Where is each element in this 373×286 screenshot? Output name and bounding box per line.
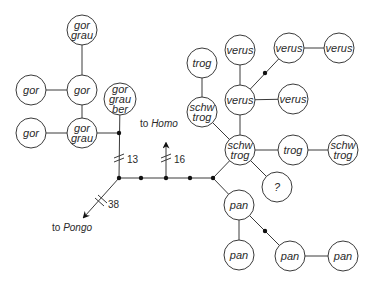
haplotype-node: pan xyxy=(224,240,254,270)
node-label: grau xyxy=(71,132,93,144)
gorilla-branch-count: 13 xyxy=(127,154,139,165)
to-pongo-label: to Pongo xyxy=(52,222,92,233)
node-label: pan xyxy=(229,249,248,261)
node-label: trog xyxy=(284,144,304,156)
node-label: trog xyxy=(334,149,354,161)
haplotype-node: gor xyxy=(16,118,46,148)
haplotype-node: pan xyxy=(275,241,305,271)
haplotype-node: verus xyxy=(324,33,354,63)
node-label: grau xyxy=(71,29,93,41)
haplotype-node: gor xyxy=(16,75,46,105)
haplotype-node: gorgrau xyxy=(67,118,97,148)
haplotype-node: schwtrog xyxy=(187,97,217,127)
node-label: trog xyxy=(193,57,213,69)
node-label: verus xyxy=(326,42,353,54)
haplotype-node: trog xyxy=(278,135,308,165)
haplotype-node: verus xyxy=(225,35,255,65)
haplotype-node: ? xyxy=(262,172,292,202)
to-homo-label: to Homo xyxy=(140,118,178,129)
node-label: verus xyxy=(227,44,254,56)
haplotype-node: verus xyxy=(225,85,255,115)
homo-branch-count: 16 xyxy=(174,154,186,165)
node-label: pan xyxy=(280,250,299,262)
node-label: pan xyxy=(229,199,248,211)
node-label: gor xyxy=(23,127,40,139)
haplotype-node: gorgrau xyxy=(67,15,97,45)
haplotype-node: pan xyxy=(328,241,358,271)
haplotype-node: gorgrauber xyxy=(104,83,136,115)
node-label: ber xyxy=(112,103,129,115)
haplotype-node: verus xyxy=(274,33,304,63)
haplotype-node: schwtrog xyxy=(225,135,255,165)
haplotype-network-diagram: gorgraugorgorgorgorgraugorgraubertrogsch… xyxy=(0,0,373,286)
node-label: ? xyxy=(274,181,281,193)
node-label: verus xyxy=(276,42,303,54)
pongo-branch-count: 38 xyxy=(108,199,120,210)
node-label: pan xyxy=(333,250,352,262)
haplotype-node: trog xyxy=(187,48,217,78)
haplotype-node: verus xyxy=(278,84,308,114)
haplotype-node: pan xyxy=(224,190,254,220)
node-label: trog xyxy=(231,149,251,161)
node-label: verus xyxy=(280,93,307,105)
haplotype-node: schwtrog xyxy=(328,135,358,165)
node-label: verus xyxy=(227,94,254,106)
node-label: gor xyxy=(23,84,40,96)
node-label: gor xyxy=(74,84,91,96)
haplotype-node: gor xyxy=(67,75,97,105)
node-label: trog xyxy=(193,111,213,123)
